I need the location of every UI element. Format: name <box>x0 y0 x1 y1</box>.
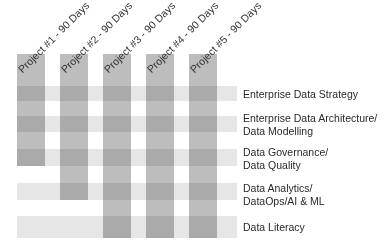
workstream-label-architecture: Enterprise Data Architecture/ Data Model… <box>243 112 377 138</box>
project-column-4 <box>146 54 174 238</box>
workstream-label-line1: Data Governance/ <box>243 146 328 159</box>
workstream-label-analytics: Data Analytics/ DataOps/AI & ML <box>243 182 325 208</box>
workstream-label-line2: Data Modelling <box>243 125 377 138</box>
project-column-2 <box>60 54 88 200</box>
project-column-3 <box>103 54 131 238</box>
workstream-label-line1: Enterprise Data Strategy <box>243 88 358 101</box>
workstream-label-line1: Enterprise Data Architecture/ <box>243 112 377 125</box>
workstream-label-line1: Data Literacy <box>243 221 305 234</box>
workstream-label-line2: DataOps/AI & ML <box>243 195 325 208</box>
project-column-5 <box>189 54 217 238</box>
workstream-label-governance: Data Governance/ Data Quality <box>243 146 328 172</box>
workstream-label-line2: Data Quality <box>243 159 328 172</box>
workstream-label-line1: Data Analytics/ <box>243 182 325 195</box>
workstream-label-strategy: Enterprise Data Strategy <box>243 88 358 101</box>
project-workstream-matrix: Project #1 - 90 Days Project #2 - 90 Day… <box>0 0 390 247</box>
workstream-label-literacy: Data Literacy <box>243 221 305 234</box>
